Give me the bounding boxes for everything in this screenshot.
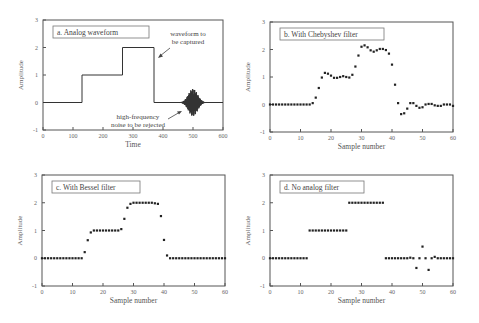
y-tick-label: -1 xyxy=(33,127,38,133)
data-point xyxy=(78,257,80,259)
y-tick-label: 2 xyxy=(262,47,265,53)
data-point xyxy=(363,44,365,46)
y-tick-label: -1 xyxy=(260,129,265,135)
x-tick-label: 60 xyxy=(222,289,228,295)
data-point xyxy=(215,257,217,259)
data-point xyxy=(345,229,347,231)
data-point xyxy=(428,269,430,271)
data-point xyxy=(68,257,70,259)
y-tick-label: 2 xyxy=(34,200,37,206)
y-tick-label: 1 xyxy=(262,228,265,234)
data-point xyxy=(169,257,171,259)
data-point xyxy=(284,257,286,259)
data-point xyxy=(56,257,58,259)
data-point xyxy=(391,64,393,66)
data-point xyxy=(452,105,454,107)
x-tick-label: 50 xyxy=(192,289,198,295)
data-point xyxy=(166,254,168,256)
data-point xyxy=(275,103,277,105)
data-point xyxy=(376,49,378,51)
data-point xyxy=(218,257,220,259)
data-point xyxy=(102,229,104,231)
data-point xyxy=(96,229,98,231)
data-point xyxy=(284,103,286,105)
data-point xyxy=(160,215,162,217)
x-tick-label: 60 xyxy=(450,135,456,141)
data-point xyxy=(336,77,338,79)
data-point xyxy=(272,103,274,105)
data-point xyxy=(293,103,295,105)
data-point xyxy=(290,103,292,105)
data-point xyxy=(424,103,426,105)
data-point xyxy=(327,229,329,231)
x-tick-label: 200 xyxy=(99,133,108,139)
data-point xyxy=(269,257,271,259)
data-point xyxy=(333,229,335,231)
y-tick-label: 0 xyxy=(35,100,38,106)
y-tick-label: 3 xyxy=(35,17,38,23)
data-point xyxy=(306,103,308,105)
data-point xyxy=(200,257,202,259)
data-point xyxy=(318,87,320,89)
data-point xyxy=(47,257,49,259)
data-point xyxy=(287,103,289,105)
data-point xyxy=(357,54,359,56)
data-point xyxy=(212,257,214,259)
data-point xyxy=(421,106,423,108)
data-point xyxy=(409,102,411,104)
data-point xyxy=(443,257,445,259)
data-point xyxy=(272,257,274,259)
x-tick-label: 30 xyxy=(359,135,365,141)
y-tick-label: 1 xyxy=(262,74,265,80)
data-point xyxy=(74,257,76,259)
annotation-noise: noise to be rejected xyxy=(111,121,166,129)
data-point xyxy=(190,257,192,259)
y-tick-label: 0 xyxy=(262,255,265,261)
x-tick-label: 10 xyxy=(298,135,304,141)
data-point xyxy=(348,202,350,204)
data-point xyxy=(148,202,150,204)
x-tick-label: 400 xyxy=(159,133,168,139)
data-point xyxy=(330,75,332,77)
x-tick-label: 50 xyxy=(420,289,426,295)
panel-c: 0102030405060-10123Sample numberAmplitud… xyxy=(16,172,228,305)
data-point xyxy=(400,113,402,115)
data-point xyxy=(315,97,317,99)
data-point xyxy=(418,257,420,259)
data-point xyxy=(434,256,436,258)
data-point xyxy=(409,257,411,259)
data-point xyxy=(53,257,55,259)
x-tick-label: 300 xyxy=(129,133,138,139)
x-tick-label: 30 xyxy=(131,289,137,295)
data-point xyxy=(342,75,344,77)
data-point xyxy=(406,108,408,110)
data-point xyxy=(397,257,399,259)
y-axis-label: Amplitude xyxy=(17,60,25,90)
data-point xyxy=(388,53,390,55)
annotation-noise: high-frequency xyxy=(117,113,160,121)
data-point xyxy=(126,207,128,209)
data-point xyxy=(370,49,372,51)
x-tick-label: 50 xyxy=(420,135,426,141)
data-point xyxy=(333,77,335,79)
data-point xyxy=(290,257,292,259)
data-point xyxy=(184,257,186,259)
y-tick-label: 0 xyxy=(262,102,265,108)
data-point xyxy=(373,51,375,53)
data-point xyxy=(99,229,101,231)
data-point xyxy=(93,229,95,231)
data-point xyxy=(321,229,323,231)
data-point xyxy=(424,257,426,259)
x-axis-label: Sample number xyxy=(338,142,386,151)
data-point xyxy=(299,103,301,105)
data-point xyxy=(321,76,323,78)
y-tick-label: 3 xyxy=(262,19,265,25)
data-point xyxy=(62,257,64,259)
x-tick-label: 20 xyxy=(328,135,334,141)
data-point xyxy=(203,257,205,259)
data-point xyxy=(293,257,295,259)
data-point xyxy=(394,84,396,86)
data-point xyxy=(376,202,378,204)
figure-four-panel: 0100200300400500600-10123TimeAmplitudea.… xyxy=(0,0,479,323)
x-axis-label: Sample number xyxy=(110,296,158,305)
